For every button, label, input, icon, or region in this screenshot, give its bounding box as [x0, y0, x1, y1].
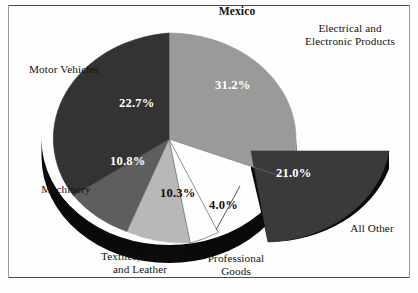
label-textiles: Textiles, Apparel and Leather [80, 250, 200, 275]
value-motor-vehicles: 22.7% [119, 96, 155, 111]
value-textiles: 10.3% [160, 186, 196, 201]
label-motor-vehicles: Motor Vehicles [10, 63, 118, 76]
label-professional: Professional Goods [190, 252, 282, 277]
value-all-other: 21.0% [276, 166, 312, 181]
label-electrical: Electrical and Electronic Products [283, 22, 417, 47]
label-machinery: Machinery [25, 183, 107, 196]
value-professional: 4.0% [209, 198, 238, 213]
label-all-other: All Other [336, 222, 408, 235]
value-machinery: 10.8% [110, 154, 146, 169]
figure-container: Mexico Electrical and Electronic Product… [0, 0, 418, 293]
chart-title: Mexico [198, 6, 276, 19]
value-electrical: 31.2% [215, 78, 251, 93]
